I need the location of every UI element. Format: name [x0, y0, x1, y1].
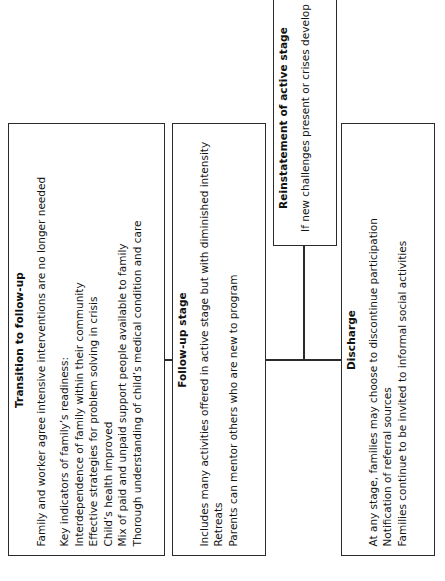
node-reinstatement-subtitle: If new challenges present or crises deve… [298, 0, 312, 236]
node-transition-lines: Family and worker agree intensive interv… [33, 133, 143, 546]
node-discharge-title: Discharge [345, 133, 357, 546]
node-followup-line-3: Parents can mentor others who are new to… [226, 133, 240, 546]
node-follow-up-stage[interactable]: Follow-up stage Includes many activities… [172, 123, 266, 556]
node-discharge-line-3: Families continue to be invited to infor… [395, 133, 409, 546]
node-transition-to-follow-up[interactable]: Transition to follow-up Family and worke… [8, 123, 165, 556]
node-followup-title: Follow-up stage [176, 133, 188, 546]
node-followup-lines: Includes many activities offered in acti… [197, 133, 240, 546]
node-transition-line-7: Thorough understanding of child’s medica… [129, 133, 143, 546]
node-discharge-lines: At any stage, families may choose to dis… [366, 133, 409, 546]
node-transition-line-3: Interdependence of family within their c… [71, 133, 85, 546]
connector-transition-to-followup [165, 359, 173, 361]
node-followup-line-1: Includes many activities offered in acti… [197, 133, 211, 546]
node-discharge-line-1: At any stage, families may choose to dis… [366, 133, 380, 546]
node-transition-line-5: Child’s health improved [100, 133, 114, 546]
node-reinstatement-title: Reinstatement of active stage [277, 0, 289, 236]
connector-followup-discharge-bus [266, 359, 341, 361]
node-followup-line-2: Retreats [211, 133, 225, 546]
node-transition-line-1: Family and worker agree intensive interv… [33, 133, 47, 546]
connector-reinstatement-stem [303, 246, 305, 360]
node-transition-title: Transition to follow-up [12, 133, 24, 546]
node-transition-line-2: Key indicators of family’s readiness: [56, 133, 70, 546]
node-discharge-line-2: Notification of referral sources [380, 133, 394, 546]
node-discharge[interactable]: Discharge At any stage, families may cho… [341, 123, 435, 556]
node-reinstatement-of-active-stage[interactable]: Reinstatement of active stage If new cha… [273, 0, 337, 246]
node-transition-line-6: Mix of paid and unpaid support people av… [114, 133, 128, 546]
diagram-canvas: Transition to follow-up Family and worke… [0, 0, 445, 581]
node-transition-line-4: Effective strategies for problem solving… [85, 133, 99, 546]
